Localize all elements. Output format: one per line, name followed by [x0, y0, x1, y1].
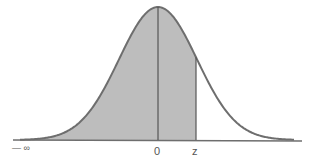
x-axis: [13, 140, 302, 141]
normal-curve-diagram: [0, 0, 311, 163]
z-label: z: [192, 146, 198, 157]
zero-label: 0: [154, 146, 160, 157]
shaded-area: [20, 7, 196, 140]
negative-infinity-label: — ∞: [12, 143, 30, 154]
